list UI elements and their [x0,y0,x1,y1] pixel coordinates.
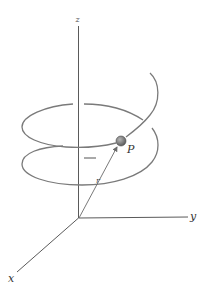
x-axis-label: x [8,272,15,285]
helix-diagram: z y x P r [0,0,207,297]
x-axis [17,218,79,272]
y-axis-label: y [189,210,197,223]
z-axis-label: z [75,15,81,24]
y-axis [79,217,189,218]
helix-curve [22,73,158,185]
particle-p [116,136,126,146]
particle-label: P [126,143,135,156]
